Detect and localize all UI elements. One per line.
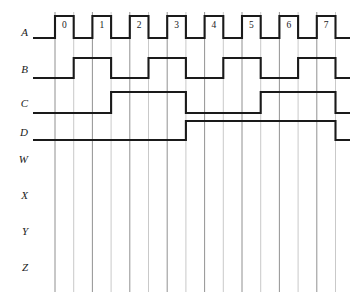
count-label: 4: [207, 21, 221, 31]
signal-label-z: Z: [6, 262, 28, 273]
signal-label-x: X: [6, 190, 28, 201]
count-label: 0: [57, 21, 71, 31]
timing-diagram-figure: ABCDWXYZ 01234567: [0, 0, 358, 307]
waveform-b: [33, 58, 350, 78]
count-label: 7: [319, 21, 333, 31]
waveform-c: [33, 92, 350, 113]
waveform-d: [33, 121, 350, 140]
signal-label-w: W: [6, 154, 28, 165]
count-label: 3: [170, 21, 184, 31]
signal-label-c: C: [6, 98, 28, 109]
waveform-group: [33, 16, 350, 140]
signal-label-y: Y: [6, 226, 28, 237]
count-label: 2: [132, 21, 146, 31]
waveform-a: [33, 16, 350, 38]
signal-label-a: A: [6, 27, 28, 38]
gridline-group: [55, 12, 336, 292]
waveform-canvas: [0, 0, 358, 307]
signal-label-b: B: [6, 64, 28, 75]
signal-label-d: D: [6, 127, 28, 138]
count-label: 1: [95, 21, 109, 31]
count-label: 6: [282, 21, 296, 31]
count-label: 5: [244, 21, 258, 31]
